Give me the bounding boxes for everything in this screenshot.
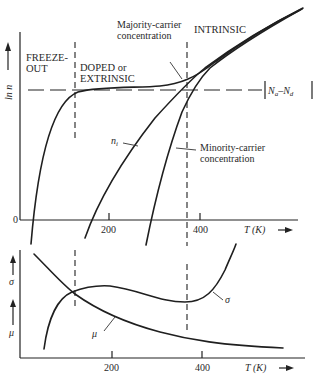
tick-label-400-top: 400 [193,224,208,235]
conductivity-curve [44,244,236,349]
arrow-up-icon [10,255,16,263]
arrow-up-icon [5,42,11,51]
svg-text:ln n: ln n [3,85,14,100]
intrinsic-concentration-curve [85,9,302,238]
intrinsic-label: INTRINSIC [194,24,246,35]
tick-label-400-bottom: 400 [195,362,210,373]
arrow-up-icon [10,299,16,307]
y-axis-label-ln-n: ln n [3,42,14,100]
tick-label-200-bottom: 200 [104,362,119,373]
mu-leader [104,317,115,331]
svg-text:μ: μ [8,327,14,338]
zero-tick-label: 0 [13,214,18,225]
semiconductor-temperature-chart: ln n Na–Nd FREEZE-OUT DOPED orEXTRINSIC … [0,0,320,378]
majority-carrier-curve [31,8,303,244]
arrow-right-icon [286,365,294,371]
doped-extrinsic-label: DOPED orEXTRINSIC [80,62,135,84]
arrow-right-icon [285,227,293,233]
ni-annotation: ni [111,135,118,148]
top-plot: ln n Na–Nd FREEZE-OUT DOPED orEXTRINSIC … [3,8,312,246]
na-nd-label: Na–Nd [265,81,312,99]
majority-leader [170,62,182,79]
minority-leader [176,148,196,150]
sigma-curve-label: σ [225,294,231,305]
x-axis-label-bottom: T (K) [245,362,267,374]
tick-label-200-top: 200 [101,224,116,235]
x-axis-label-top: T (K) [244,224,266,236]
majority-carrier-annotation: Majority-carrierconcentration [117,19,182,41]
minority-carrier-curve [146,10,300,245]
svg-text:σ: σ [9,276,15,287]
svg-text:Na–Nd: Na–Nd [267,85,294,98]
minority-carrier-annotation: Minority-carrierconcentration [200,142,266,164]
freeze-out-label: FREEZE-OUT [26,52,68,74]
mu-axis-label: μ [8,299,16,338]
bottom-plot: σ μ σ μ 200 400 T (K) [8,244,305,374]
mobility-curve [34,254,283,348]
mu-curve-label: μ [91,328,97,339]
sigma-leader [213,292,223,300]
sigma-axis-label: σ [9,255,16,287]
